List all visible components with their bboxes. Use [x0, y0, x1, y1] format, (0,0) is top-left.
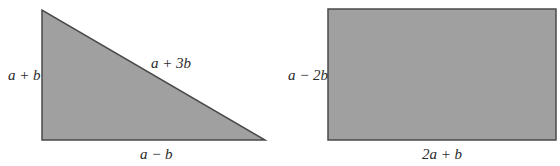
- triangle-bottom-side-label: a − b: [140, 147, 173, 162]
- rectangle-left-side-label: a − 2b: [288, 68, 328, 83]
- shapes-canvas: [0, 0, 560, 166]
- right-triangle: [42, 10, 265, 140]
- rectangle-left-side-text: a − 2b: [288, 67, 328, 83]
- diagram-stage: a + b a + 3b a − b a − 2b 2a + b: [0, 0, 560, 166]
- triangle-left-side-text: a + b: [8, 67, 41, 83]
- triangle-bottom-side-text: a − b: [140, 146, 173, 162]
- triangle-left-side-label: a + b: [8, 68, 41, 83]
- triangle-hypotenuse-label: a + 3b: [151, 56, 191, 71]
- triangle-hypotenuse-text: a + 3b: [151, 55, 191, 71]
- rectangle: [328, 9, 556, 140]
- rectangle-bottom-side-label: 2a + b: [422, 147, 462, 162]
- rectangle-bottom-side-text: 2a + b: [422, 146, 462, 162]
